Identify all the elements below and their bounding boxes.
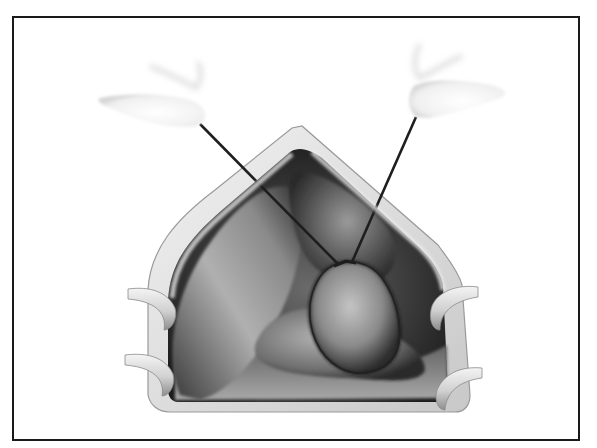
left-gloved-fingertip — [98, 62, 205, 127]
right-gloved-fingertip — [409, 44, 505, 118]
surgical-illustration — [0, 0, 597, 448]
